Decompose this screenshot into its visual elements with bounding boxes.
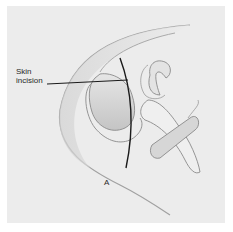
label-line-2: incision [16,76,43,85]
shoulder-anatomy-illustration [0,0,233,232]
label-line-1: Skin [16,67,43,76]
acromion [89,74,134,131]
coracoid-process [149,61,170,95]
right-bone-tip [188,100,198,118]
skin-incision-label: Skin incision [16,67,43,85]
panel-letter: A [104,178,109,187]
